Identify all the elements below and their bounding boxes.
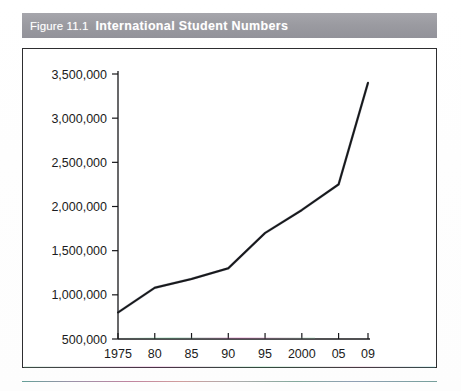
y-tick-label: 500,000	[62, 333, 107, 347]
y-tick-label: 1,500,000	[51, 244, 107, 258]
x-tick-label: 05	[332, 347, 346, 361]
x-tick-label: 2000	[288, 347, 316, 361]
x-tick-label: 09	[361, 347, 375, 361]
y-tick-label: 2,000,000	[51, 200, 107, 214]
x-tick-label: 95	[258, 347, 272, 361]
figure-caption-label: International Student Numbers	[95, 19, 288, 33]
y-tick-label: 3,500,000	[51, 68, 107, 82]
figure-title-bar: Figure 11.1 International Student Number…	[22, 13, 437, 38]
x-axis-tick-group: 19758085909520000509	[104, 333, 375, 361]
x-tick-label: 80	[148, 347, 162, 361]
x-tick-label: 90	[221, 347, 235, 361]
series-scan-fringe-magenta	[118, 83, 368, 313]
y-tick-label: 1,000,000	[51, 288, 107, 302]
chart-frame: 500,0001,000,0001,500,0002,000,0002,500,…	[22, 48, 437, 368]
x-tick-label: 85	[185, 347, 199, 361]
line-chart: 500,0001,000,0001,500,0002,000,0002,500,…	[23, 49, 438, 369]
series-scan-fringe-green	[118, 83, 368, 313]
y-tick-label: 3,000,000	[51, 112, 107, 126]
y-axis-tick-group: 500,0001,000,0001,500,0002,000,0002,500,…	[51, 68, 118, 347]
page-bottom-rule	[22, 381, 437, 382]
x-tick-label: 1975	[104, 347, 132, 361]
y-tick-label: 2,500,000	[51, 156, 107, 170]
series-line-international-students	[118, 83, 368, 313]
figure-number-label: Figure 11.1	[30, 20, 88, 32]
